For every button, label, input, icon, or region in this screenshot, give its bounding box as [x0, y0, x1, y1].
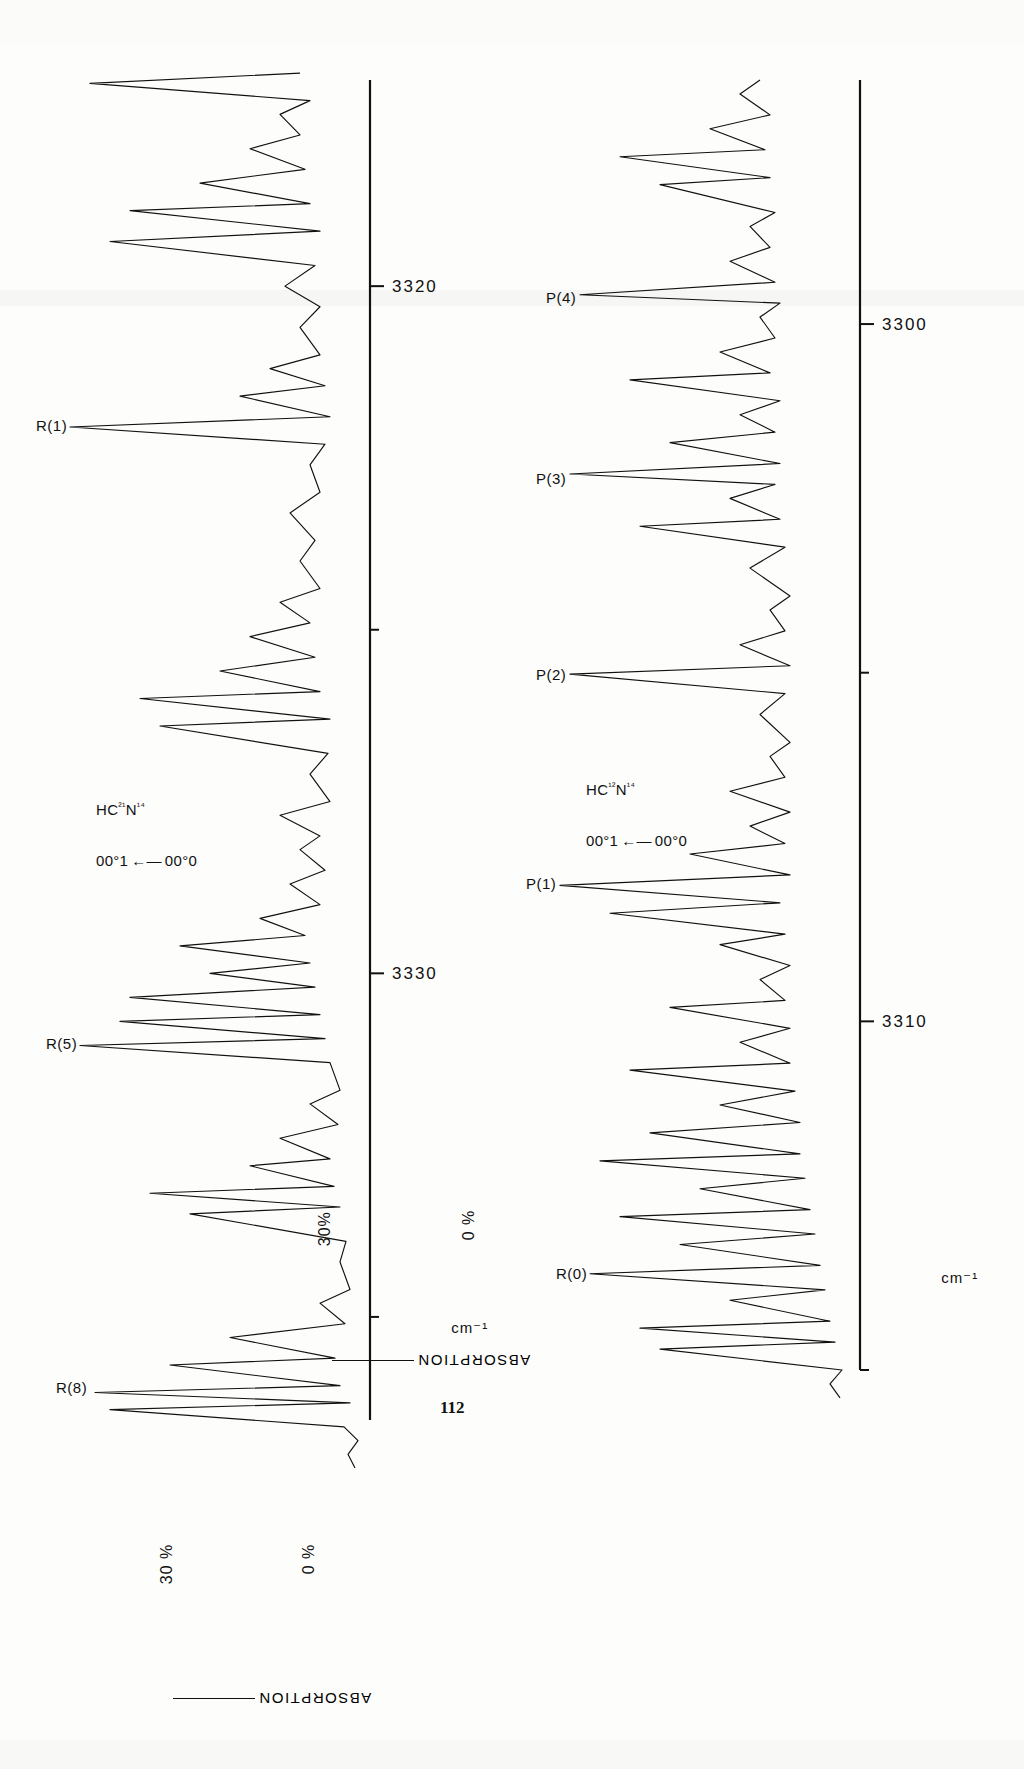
lower-spectrum-trace — [508, 80, 928, 1370]
lower-y-axis-leader-line — [332, 1360, 414, 1361]
upper-spectrum-trace — [18, 80, 438, 1420]
page-number: 112 — [440, 1398, 465, 1418]
lower-species-formula: HC¹²N¹⁴ — [586, 780, 687, 798]
upper-y-axis-leader-line — [173, 1698, 255, 1699]
x-tick-label: 3310 — [882, 1012, 928, 1032]
upper-species-lower-state: 00°0 — [165, 852, 197, 869]
upper-species-formula: HC²¹N¹⁴ — [96, 800, 197, 818]
peak-label: P(3) — [536, 470, 566, 487]
lower-spectrum-panel: 33103300 cm⁻¹ R(0)P(1)P(2)P(3)P(4) HC¹²N… — [508, 80, 928, 1370]
lower-axis-unit-label: cm⁻¹ — [900, 1252, 978, 1304]
peak-label: P(2) — [536, 666, 566, 683]
x-tick-label: 3320 — [392, 277, 438, 297]
upper-x-ticks — [370, 0, 384, 1317]
lower-trace-path — [560, 80, 842, 1398]
arrow-left-icon: ←— — [621, 832, 652, 849]
scan-tint-band-3 — [0, 1740, 1024, 1769]
lower-x-ticks — [860, 324, 874, 1370]
peak-label: R(5) — [46, 1035, 77, 1052]
lower-y-tick-top-label: 30% — [298, 1211, 352, 1268]
upper-y-tick-top-label: 30 % — [140, 1544, 194, 1606]
upper-species-upper-state: 00°1 — [96, 852, 128, 869]
peak-label: R(1) — [36, 417, 67, 434]
upper-y-tick-bottom-label: 0 % — [282, 1544, 336, 1596]
lower-species-lower-state: 00°0 — [655, 832, 687, 849]
x-tick-label: 3300 — [882, 315, 928, 335]
lower-y-tick-bottom-label: 0 % — [442, 1210, 496, 1262]
peak-label: P(4) — [546, 289, 576, 306]
scan-tint-band-1 — [0, 0, 1024, 44]
lower-species-upper-state: 00°1 — [586, 832, 618, 849]
peak-label: R(0) — [556, 1265, 587, 1282]
peak-label: P(1) — [526, 875, 556, 892]
x-tick-label: 3330 — [392, 964, 438, 984]
upper-species-annotation: HC²¹N¹⁴ 00°1 ←— 00°0 — [96, 765, 197, 904]
lower-species-annotation: HC¹²N¹⁴ 00°1 ←— 00°0 — [586, 745, 687, 884]
lower-y-axis-title-group: ABSORPTION — [332, 1352, 530, 1369]
upper-spectrum-panel: 33303320 cm⁻¹ R(8)R(5)R(1) HC²¹N¹⁴ 00°1 … — [18, 80, 438, 1420]
peak-label: R(8) — [56, 1379, 87, 1396]
arrow-left-icon: ←— — [131, 852, 162, 869]
scanned-journal-page: 33303320 cm⁻¹ R(8)R(5)R(1) HC²¹N¹⁴ 00°1 … — [0, 0, 1024, 1769]
upper-y-axis-title-group: ABSORPTION — [173, 1690, 371, 1707]
lower-y-axis-title: ABSORPTION — [417, 1352, 530, 1369]
upper-axis-unit-label: cm⁻¹ — [410, 1302, 488, 1354]
upper-y-axis-title: ABSORPTION — [258, 1690, 371, 1707]
